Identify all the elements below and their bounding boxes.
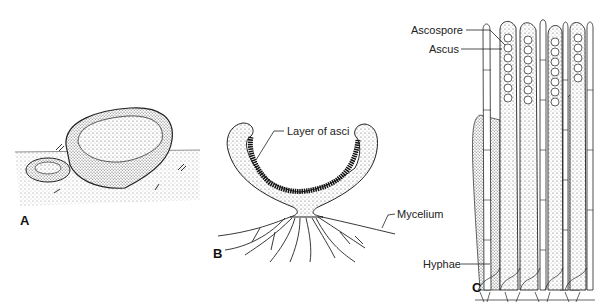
label-mycelium: Mycelium — [397, 208, 443, 220]
label-layer-of-asci: Layer of asci — [287, 125, 349, 137]
fungus-diagram — [0, 0, 599, 308]
panel-b-illustration — [218, 123, 395, 262]
panel-label-a: A — [20, 213, 29, 228]
panel-label-b: B — [213, 246, 222, 261]
panel-label-c: C — [472, 280, 481, 295]
label-hyphae: Hyphae — [423, 258, 461, 270]
label-ascospore: Ascospore — [411, 24, 463, 36]
panel-a-illustration — [15, 108, 200, 206]
label-ascus: Ascus — [429, 43, 459, 55]
panel-c-illustration — [461, 20, 595, 302]
